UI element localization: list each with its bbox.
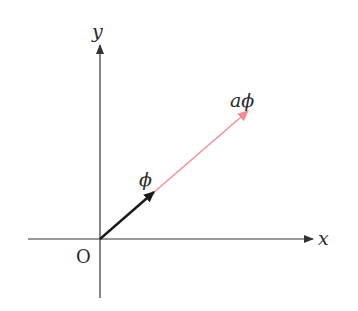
vector-a-phi xyxy=(153,111,248,193)
y-axis-label: y xyxy=(91,20,103,42)
vector-a-phi-label: aϕ xyxy=(230,89,254,111)
vector-phi xyxy=(100,192,154,239)
vector-scaling-diagram: y x O ϕ aϕ xyxy=(0,0,358,311)
origin-label: O xyxy=(76,246,91,267)
vector-phi-label: ϕ xyxy=(139,168,152,190)
x-axis-label: x xyxy=(318,227,329,249)
